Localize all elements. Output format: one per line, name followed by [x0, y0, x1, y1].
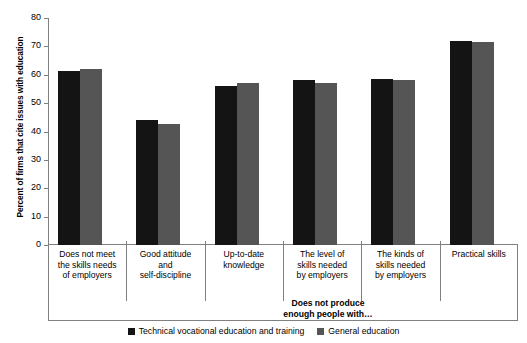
- bar: [80, 69, 102, 245]
- legend-label: Technical vocational education and train…: [139, 326, 305, 336]
- bar: [215, 86, 237, 245]
- category-label: Up-to-dateknowledge: [205, 249, 283, 270]
- bar: [450, 41, 472, 245]
- y-tick-label: 40: [31, 126, 41, 137]
- y-tick-label: 70: [31, 40, 41, 51]
- category-label-line: skills needed: [283, 260, 361, 271]
- legend-item: Technical vocational education and train…: [128, 326, 305, 336]
- bar: [472, 42, 494, 245]
- x-tick-mark: [440, 241, 441, 245]
- group-caption-line: enough people with…: [238, 309, 418, 320]
- legend-swatch-icon: [128, 328, 135, 335]
- category-label: The level ofskills neededby employers: [283, 249, 361, 281]
- y-tick-30: 30: [0, 160, 48, 161]
- category-label-line: of employers: [48, 270, 126, 281]
- bar: [393, 80, 415, 245]
- y-tick-50: 50: [0, 103, 48, 104]
- category-axis-labels: Does not meetthe skills needsof employer…: [48, 245, 518, 301]
- bars-layer: [48, 18, 518, 245]
- y-tick-label: 20: [31, 182, 41, 193]
- bar-chart: Percent of firms that cite issues with e…: [0, 0, 527, 343]
- y-tick-label: 10: [31, 211, 41, 222]
- category-label-line: Practical skills: [440, 249, 518, 260]
- y-tick-label: 0: [36, 239, 41, 250]
- legend-label: General education: [328, 326, 399, 336]
- bar: [158, 124, 180, 245]
- category-label-line: skills needed: [361, 260, 439, 271]
- group-caption-line: Does not produce: [238, 298, 418, 309]
- category-label: Good attitudeandself-discipline: [126, 249, 204, 281]
- y-tick-label: 60: [31, 69, 41, 80]
- category-label-line: The kinds of: [361, 249, 439, 260]
- y-tick-label: 50: [31, 97, 41, 108]
- y-tick-70: 70: [0, 46, 48, 47]
- bar-group: [361, 18, 439, 245]
- legend-swatch-icon: [317, 328, 324, 335]
- y-tick-60: 60: [0, 75, 48, 76]
- x-tick-mark: [283, 241, 284, 245]
- y-tick-label: 80: [31, 12, 41, 23]
- category-label-line: The level of: [283, 249, 361, 260]
- bar-group: [283, 18, 361, 245]
- y-tick-label: 30: [31, 154, 41, 165]
- y-tick-20: 20: [0, 188, 48, 189]
- category-label-line: self-discipline: [126, 270, 204, 281]
- category-label-line: Good attitude: [126, 249, 204, 260]
- bar: [293, 80, 315, 245]
- category-label-line: Does not meet: [48, 249, 126, 260]
- category-label-line: by employers: [361, 270, 439, 281]
- legend-item: General education: [317, 326, 399, 336]
- category-label-line: knowledge: [205, 260, 283, 271]
- y-axis-title: Percent of firms that cite issues with e…: [15, 9, 25, 245]
- bar: [136, 120, 158, 245]
- plot-border-bottom: [48, 320, 518, 321]
- category-label: Does not meetthe skills needsof employer…: [48, 249, 126, 281]
- category-label-line: by employers: [283, 270, 361, 281]
- category-label: Practical skills: [440, 249, 518, 260]
- x-tick-mark: [205, 241, 206, 245]
- bar: [371, 79, 393, 245]
- plot-border-left: [48, 245, 49, 321]
- category-label-line: Up-to-date: [205, 249, 283, 260]
- category-label-line: the skills needs: [48, 260, 126, 271]
- bar-group: [126, 18, 204, 245]
- bar: [58, 71, 80, 246]
- x-tick-mark: [361, 241, 362, 245]
- bar: [237, 83, 259, 245]
- bar-group: [48, 18, 126, 245]
- chart-legend: Technical vocational education and train…: [0, 326, 527, 336]
- category-label: The kinds ofskills neededby employers: [361, 249, 439, 281]
- y-tick-80: 80: [0, 18, 48, 19]
- bar-group: [440, 18, 518, 245]
- y-tick-0: 0: [0, 245, 48, 246]
- bar-group: [205, 18, 283, 245]
- bar: [315, 83, 337, 245]
- plot-border-right: [517, 245, 518, 321]
- group-bracket-caption: Does not produceenough people with…: [238, 298, 418, 319]
- y-tick-10: 10: [0, 217, 48, 218]
- x-tick-mark: [126, 241, 127, 245]
- category-label-line: and: [126, 260, 204, 271]
- y-tick-40: 40: [0, 132, 48, 133]
